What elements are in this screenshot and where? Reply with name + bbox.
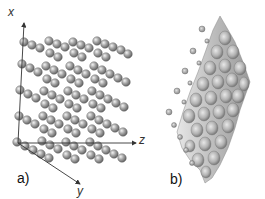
z-axis-label: z <box>139 133 145 147</box>
lattice-layer-5 <box>13 137 127 164</box>
lattice-layer-4 <box>15 112 128 138</box>
panel-a-label: a) <box>17 170 29 186</box>
lattice-layer-2 <box>18 60 131 88</box>
x-axis-label: x <box>8 5 14 19</box>
lattice-layer-3 <box>16 86 129 113</box>
figure: x z y a) b) <box>0 0 265 199</box>
panel-a-lattice <box>13 37 133 164</box>
lattice-layer-1 <box>20 37 133 62</box>
panel-b-surface <box>166 16 250 183</box>
y-axis-label: y <box>77 184 83 198</box>
panel-b-label: b) <box>170 171 182 187</box>
figure-canvas <box>0 0 265 199</box>
